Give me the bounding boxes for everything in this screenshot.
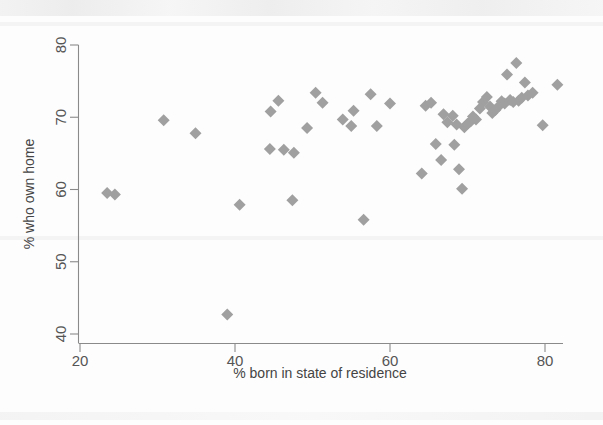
data-point-marker <box>301 122 313 134</box>
y-tick-label: 50 <box>52 253 69 270</box>
data-point-marker <box>288 147 300 159</box>
y-axis-ticks: 4050607080 <box>52 37 79 343</box>
y-axis-title: % who own home <box>21 139 37 250</box>
y-tick-label: 80 <box>52 37 69 54</box>
data-point-marker <box>456 183 468 195</box>
data-point-marker <box>551 79 563 91</box>
data-point-marker <box>272 95 284 107</box>
data-point-marker <box>430 138 442 150</box>
x-tick-label: 80 <box>537 352 554 369</box>
data-point-marker <box>345 120 357 132</box>
data-point-marker <box>286 194 298 206</box>
data-point-marker <box>337 113 349 125</box>
x-axis-title: % born in state of residence <box>233 365 407 381</box>
data-point-marker <box>109 189 121 201</box>
data-point-marker <box>510 57 522 69</box>
data-point-marker <box>158 114 170 126</box>
data-point-marker <box>384 98 396 110</box>
data-point-marker <box>221 308 233 320</box>
data-point-marker <box>537 119 549 131</box>
data-point-marker <box>501 69 513 81</box>
data-point-marker <box>358 214 370 226</box>
data-point-marker <box>365 88 377 100</box>
data-point-marker <box>264 143 276 155</box>
data-point-marker <box>189 127 201 139</box>
data-point-marker <box>371 120 383 132</box>
x-tick-label: 20 <box>72 352 89 369</box>
plot-canvas: 4050607080 20406080 % born in state of r… <box>0 0 603 425</box>
data-point-marker <box>435 154 447 166</box>
y-tick-label: 70 <box>52 109 69 126</box>
data-point-marker <box>278 144 290 156</box>
data-point-marker <box>317 97 329 109</box>
data-point-marker <box>234 199 246 211</box>
data-point-marker <box>310 87 322 99</box>
data-point-marker <box>453 163 465 175</box>
scatter-plot-figure: 4050607080 20406080 % born in state of r… <box>0 0 603 425</box>
data-point-marker <box>348 105 360 117</box>
data-point-marker <box>265 105 277 117</box>
data-point-marker <box>448 139 460 151</box>
data-point-marker <box>416 168 428 180</box>
y-tick-label: 40 <box>52 326 69 343</box>
y-tick-label: 60 <box>52 181 69 198</box>
data-point-marker <box>519 77 531 89</box>
data-point-group <box>101 57 563 320</box>
